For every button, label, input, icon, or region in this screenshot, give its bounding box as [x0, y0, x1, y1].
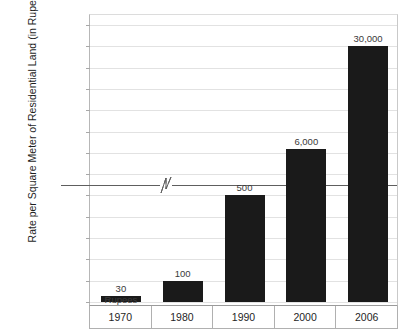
category-axis: 19701980199020002006 [89, 306, 398, 329]
gridline [90, 25, 397, 26]
bar-value-label: 6,000 [266, 136, 346, 147]
bar [348, 46, 388, 302]
axis-break-zigzag-icon [158, 176, 174, 194]
bar-annotation-label: Rupees [81, 294, 161, 305]
x-axis-category-label: 1980 [152, 306, 214, 328]
bar-value-label: 30 [81, 283, 161, 294]
y-axis-tick [86, 46, 90, 47]
x-axis-category-label: 1970 [90, 306, 152, 328]
y-axis-tick [86, 259, 90, 260]
y-axis-tick [86, 110, 90, 111]
x-axis-category-label: 1990 [213, 306, 275, 328]
x-axis-category-label: 2006 [336, 306, 397, 328]
bar [225, 195, 265, 302]
x-axis-category-label: 2000 [275, 306, 337, 328]
y-axis-tick [86, 281, 90, 282]
y-axis-tick [86, 68, 90, 69]
bar-value-label: 500 [205, 182, 285, 193]
y-axis-tick [86, 153, 90, 154]
y-axis-tick [86, 132, 90, 133]
y-axis-tick [86, 174, 90, 175]
y-axis-tick [86, 25, 90, 26]
plot-area: 35,00030,00025,00020,00015,00010,0005,00… [89, 14, 398, 306]
bar [286, 149, 326, 302]
bar-value-label: 30,000 [328, 33, 408, 44]
bar-chart: Rate per Square Meter of Residential Lan… [0, 0, 412, 336]
y-axis-tick [86, 89, 90, 90]
bar [163, 281, 203, 302]
y-axis-tick [86, 195, 90, 196]
y-axis-tick [86, 217, 90, 218]
bar-value-label: 100 [143, 268, 223, 279]
y-axis-tick [86, 238, 90, 239]
y-axis-title: Rate per Square Meter of Residential Lan… [26, 0, 38, 264]
